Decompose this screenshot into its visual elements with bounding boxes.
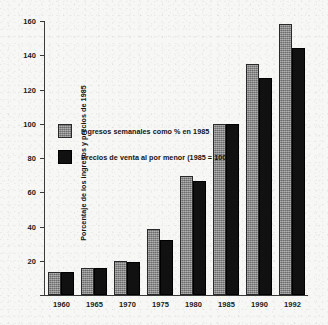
bar-group-1992 — [279, 22, 305, 295]
legend-swatch-2 — [58, 150, 72, 164]
x-label-1965: 1965 — [80, 300, 110, 309]
bar-1990-series2 — [259, 78, 272, 295]
bar-1992-series2 — [292, 48, 305, 295]
y-tick-label-100: 100 — [23, 119, 36, 128]
bar-1980-series2 — [193, 181, 206, 295]
x-label-1960: 1960 — [47, 300, 77, 309]
bar-1965-series1 — [81, 268, 94, 295]
chart-legend: Ingresos semanales como % en 1985Precios… — [58, 124, 229, 176]
y-tick-label-80: 80 — [27, 154, 36, 163]
y-tick-label-120: 120 — [23, 85, 36, 94]
legend-item-2: Precios de venta al por menor (1985 = 10… — [58, 150, 229, 164]
x-label-1992: 1992 — [278, 300, 308, 309]
y-tick-label-40: 40 — [27, 222, 36, 231]
y-tick-label-60: 60 — [27, 188, 36, 197]
y-tick-0 — [40, 295, 45, 296]
bar-1960-series2 — [61, 272, 74, 295]
bar-1992-series1 — [279, 24, 292, 295]
bar-1970-series1 — [114, 261, 127, 295]
x-axis-line — [44, 295, 308, 296]
bar-1970-series2 — [127, 262, 140, 295]
bar-1980-series1 — [180, 176, 193, 295]
bar-1960-series1 — [48, 272, 61, 295]
bar-1990-series1 — [246, 64, 259, 295]
bar-group-1990 — [246, 22, 272, 295]
legend-swatch-1 — [58, 124, 72, 138]
chart-page: 20406080100120140160 Porcentaje de los i… — [0, 0, 328, 325]
x-label-1985: 1985 — [212, 300, 242, 309]
x-label-1980: 1980 — [179, 300, 209, 309]
bar-1975-series2 — [160, 240, 173, 295]
legend-label-2: Precios de venta al por menor (1985 = 10… — [81, 153, 229, 162]
x-label-1975: 1975 — [146, 300, 176, 309]
y-tick-label-160: 160 — [23, 17, 36, 26]
bar-1975-series1 — [147, 229, 160, 295]
x-label-1970: 1970 — [113, 300, 143, 309]
y-tick-label-140: 140 — [23, 51, 36, 60]
x-label-1990: 1990 — [245, 300, 275, 309]
x-axis-labels: 19601965197019751980198519901992 — [45, 300, 309, 309]
bar-1965-series2 — [94, 268, 107, 295]
legend-item-1: Ingresos semanales como % en 1985 — [58, 124, 229, 138]
y-tick-label-20: 20 — [27, 256, 36, 265]
legend-label-1: Ingresos semanales como % en 1985 — [81, 127, 209, 136]
